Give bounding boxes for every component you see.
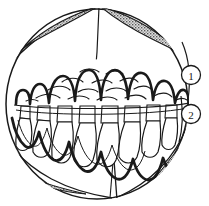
callout-1-label: 1 bbox=[188, 70, 194, 82]
callout-1[interactable]: 1 bbox=[182, 66, 201, 85]
figure-container: 1 2 bbox=[0, 0, 209, 206]
callout-2-label: 2 bbox=[188, 109, 194, 121]
callout-2[interactable]: 2 bbox=[182, 105, 201, 124]
anatomical-line-drawing: 1 2 bbox=[0, 0, 209, 206]
